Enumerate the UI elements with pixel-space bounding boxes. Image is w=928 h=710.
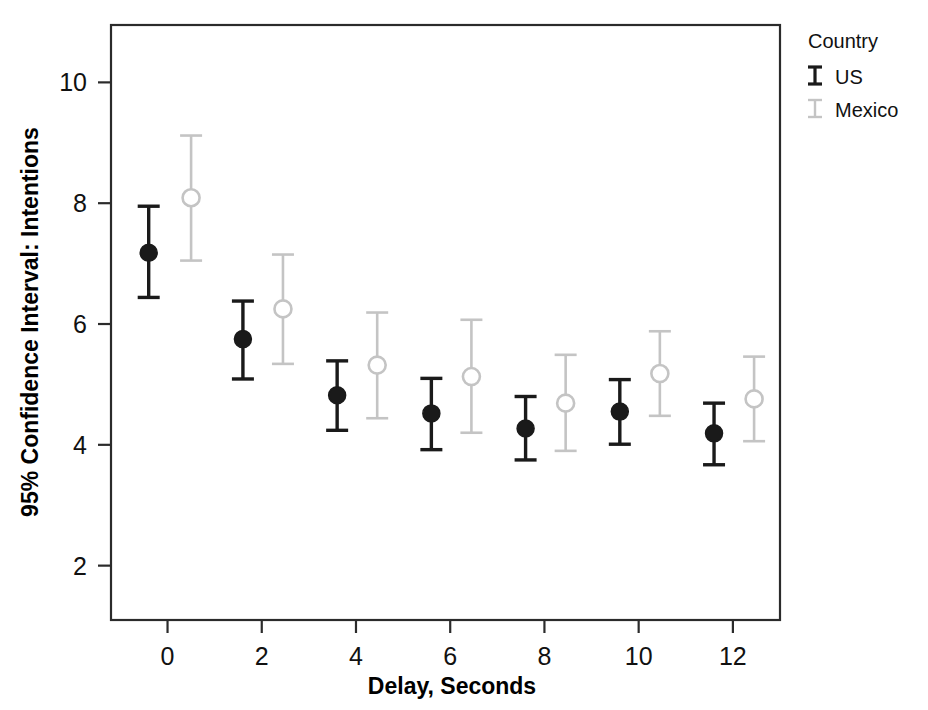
data-point-marker [557, 395, 574, 412]
data-point-marker [517, 420, 534, 437]
data-point-marker [369, 357, 386, 374]
data-point [326, 361, 348, 430]
data-point [180, 136, 202, 261]
data-point [515, 396, 537, 459]
legend-entries: USMexico [808, 66, 898, 121]
data-point-marker [463, 368, 480, 385]
data-point [703, 403, 725, 465]
plot-frame [111, 25, 780, 620]
data-point-marker [140, 244, 157, 261]
x-tick-label: 12 [719, 642, 747, 670]
y-axis-title: 95% Confidence Interval: Intentions [17, 127, 43, 517]
y-tick-label: 6 [73, 310, 87, 338]
y-tick-label: 2 [73, 552, 87, 580]
legend-title: Country [808, 30, 878, 52]
data-point [609, 380, 631, 445]
y-tick-label: 4 [73, 431, 87, 459]
error-bar-chart: 246810 024681012 Delay, Seconds 95% Conf… [0, 0, 928, 710]
data-point [232, 301, 254, 379]
x-tick-label: 6 [443, 642, 457, 670]
data-point [272, 255, 294, 364]
chart-legend: Country USMexico [808, 30, 898, 121]
x-tick-label: 2 [255, 642, 269, 670]
data-point [138, 206, 160, 297]
data-point-marker [423, 405, 440, 422]
data-point [649, 331, 671, 416]
data-point [420, 378, 442, 449]
data-point [460, 320, 482, 433]
legend-entry-mexico[interactable]: Mexico [808, 99, 898, 121]
data-point-marker [274, 300, 291, 317]
y-tick-label: 8 [73, 189, 87, 217]
data-point [555, 355, 577, 451]
y-tick-label: 10 [59, 68, 87, 96]
x-tick-label: 10 [625, 642, 653, 670]
data-point-marker [234, 331, 251, 348]
data-point-marker [611, 403, 628, 420]
data-point-marker [183, 189, 200, 206]
x-tick-label: 8 [537, 642, 551, 670]
x-axis: 024681012 [161, 620, 747, 670]
series-mexico [180, 136, 765, 451]
legend-entry-label: Mexico [835, 99, 898, 121]
legend-entry-us[interactable]: US [808, 66, 863, 88]
legend-entry-label: US [835, 66, 863, 88]
series-us [138, 206, 725, 465]
x-tick-label: 4 [349, 642, 363, 670]
x-tick-label: 0 [161, 642, 175, 670]
data-point [366, 313, 388, 419]
data-point-marker [651, 365, 668, 382]
data-series-layer [138, 136, 765, 465]
data-point-marker [706, 425, 723, 442]
data-point-marker [746, 390, 763, 407]
data-point-marker [329, 387, 346, 404]
y-axis: 246810 [59, 68, 111, 579]
data-point [743, 357, 765, 442]
chart-figure: 246810 024681012 Delay, Seconds 95% Conf… [0, 0, 928, 710]
x-axis-title: Delay, Seconds [368, 673, 536, 699]
